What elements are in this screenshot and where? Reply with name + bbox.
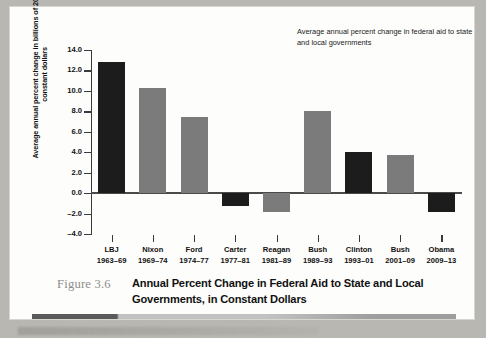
- y-tick-mark: [84, 173, 91, 174]
- bar-clinton-1993-01: [345, 152, 372, 193]
- bar-bush-1989-93: [304, 111, 331, 193]
- y-tick-mark: [84, 234, 91, 235]
- y-tick-label: 4.0: [54, 148, 82, 157]
- y-tick-label: 12.0: [54, 66, 82, 75]
- x-category-years: 2009–13: [412, 255, 470, 266]
- bar-bush-2001-09: [387, 155, 414, 193]
- x-tick-mark: [277, 235, 278, 242]
- x-tick-mark: [318, 235, 319, 242]
- x-category-name: Bush: [391, 245, 410, 254]
- figure-number: Figure 3.6: [57, 277, 111, 292]
- y-tick-label: –2.0: [54, 209, 82, 218]
- x-tick-mark: [235, 235, 236, 242]
- y-tick-mark: [84, 214, 91, 215]
- figure-card: Average annual percent change in billion…: [9, 6, 475, 320]
- y-tick-mark: [84, 152, 91, 153]
- chart-annotation-note: Average annual percent change in federal…: [297, 27, 477, 48]
- x-category-name: Obama: [429, 245, 455, 254]
- x-category-name: Bush: [308, 245, 327, 254]
- page-edge-artifact: [18, 327, 318, 335]
- figure-caption-text: Annual Percent Change in Federal Aid to …: [132, 276, 452, 307]
- x-category-name: Reagan: [263, 245, 290, 254]
- y-tick-label: 8.0: [54, 107, 82, 116]
- x-tick-mark: [194, 235, 195, 242]
- x-tick-mark: [400, 235, 401, 242]
- x-tick-mark: [441, 235, 442, 242]
- y-tick-mark: [84, 50, 91, 51]
- bar-ford-1974-77: [181, 117, 208, 193]
- x-category-name: Nixon: [142, 245, 163, 254]
- y-axis-line: [91, 50, 92, 235]
- x-tick-mark: [153, 235, 154, 242]
- bar-lbj-1963-69: [98, 62, 125, 193]
- x-category-name: Ford: [186, 245, 203, 254]
- x-category-name: Clinton: [346, 245, 372, 254]
- y-tick-label: 10.0: [54, 86, 82, 95]
- y-tick-label: 2.0: [54, 168, 82, 177]
- y-tick-mark: [84, 132, 91, 133]
- bar-reagan-1981-89: [263, 193, 290, 211]
- x-tick-mark: [359, 235, 360, 242]
- y-axis-title: Average annual percent change in billion…: [31, 0, 50, 164]
- y-tick-mark: [84, 91, 91, 92]
- caption-rule: [32, 314, 456, 319]
- chart-plot-area: Average annual percent change in billion…: [10, 7, 476, 265]
- y-tick-label: –4.0: [54, 229, 82, 238]
- bar-nixon-1969-74: [139, 88, 166, 193]
- x-category-name: LBJ: [104, 245, 118, 254]
- x-category-label: Obama2009–13: [412, 244, 470, 266]
- y-tick-label: 14.0: [54, 45, 82, 54]
- x-tick-mark: [112, 235, 113, 242]
- y-tick-mark: [84, 111, 91, 112]
- y-tick-mark: [84, 70, 91, 71]
- figure-caption: Figure 3.6 Annual Percent Change in Fede…: [10, 271, 476, 319]
- y-tick-label: 6.0: [54, 127, 82, 136]
- y-tick-mark: [84, 193, 91, 194]
- y-tick-label: 0.0: [54, 189, 82, 198]
- bar-obama-2009-13: [428, 193, 455, 211]
- bar-carter-1977-81: [222, 193, 249, 206]
- x-category-name: Carter: [224, 245, 246, 254]
